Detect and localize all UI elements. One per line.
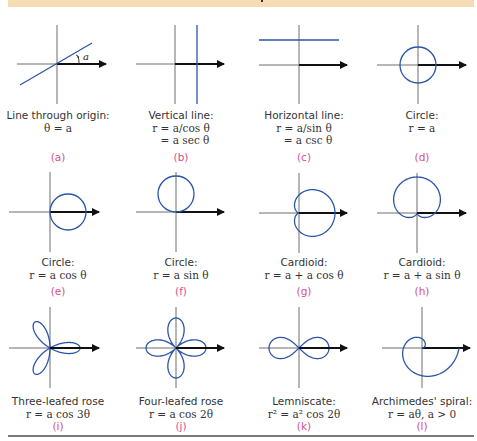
bottom-rule bbox=[8, 435, 474, 437]
panel-a-equation: θ = a bbox=[0, 122, 117, 135]
panel-l-title: Archimedes' spiral: bbox=[363, 395, 477, 408]
panel-b-title: Vertical line: bbox=[122, 109, 240, 122]
panel-i-label: (i) bbox=[0, 420, 117, 433]
panel-j-title: Four-leafed rose bbox=[122, 395, 240, 408]
panel-f-label: (f) bbox=[122, 285, 240, 298]
panel-e-equation: r = a cos θ bbox=[0, 269, 117, 282]
panel-j-caption: Four-leafed rose r = a cos 2θ (j) bbox=[122, 395, 240, 433]
panel-b-equation-2: = a sec θ bbox=[122, 134, 240, 147]
panel-h-caption: Cardioid: r = a + a sin θ (h) bbox=[363, 256, 477, 298]
panel-h-equation: r = a + a sin θ bbox=[363, 269, 477, 282]
panel-f-title: Circle: bbox=[122, 256, 240, 269]
angle-a-label: a bbox=[83, 51, 89, 62]
panel-k-title: Lemniscate: bbox=[245, 395, 363, 408]
panel-i-caption: Three-leafed rose r = a cos 3θ (i) bbox=[0, 395, 117, 433]
panel-l-label: (l) bbox=[363, 420, 477, 433]
panel-e-title: Circle: bbox=[0, 256, 117, 269]
panel-a-label: (a) bbox=[0, 151, 117, 164]
panel-e-graph bbox=[9, 172, 99, 252]
panel-l-equation: r = aθ, a > 0 bbox=[363, 408, 477, 421]
panel-i-graph bbox=[9, 307, 99, 388]
panel-k-label: (k) bbox=[245, 420, 363, 433]
panel-b-equation: r = a/cos θ bbox=[122, 122, 240, 135]
panel-c-graph bbox=[259, 25, 347, 104]
panel-e-label: (e) bbox=[0, 285, 117, 298]
panel-i-equation: r = a cos 3θ bbox=[0, 408, 117, 421]
panel-j-equation: r = a cos 2θ bbox=[122, 408, 240, 421]
panel-a-title: Line through origin: bbox=[0, 109, 117, 122]
panel-d-label: (d) bbox=[363, 151, 477, 164]
panel-d-title: Circle: bbox=[363, 109, 477, 122]
panel-k-caption: Lemniscate: r² = a² cos 2θ (k) bbox=[245, 395, 363, 433]
panel-g-caption: Cardioid: r = a + a cos θ (g) bbox=[245, 256, 363, 298]
panel-f-graph bbox=[136, 172, 224, 252]
panel-b-label: (b) bbox=[122, 151, 240, 164]
panel-d-caption: Circle: r = a (d) bbox=[363, 109, 477, 163]
panel-d-graph bbox=[377, 25, 466, 104]
panel-j-label: (j) bbox=[122, 420, 240, 433]
panel-g-label: (g) bbox=[245, 285, 363, 298]
panel-l-caption: Archimedes' spiral: r = aθ, a > 0 (l) bbox=[363, 395, 477, 433]
panel-k-equation: r² = a² cos 2θ bbox=[245, 408, 363, 421]
panel-f-caption: Circle: r = a sin θ (f) bbox=[122, 256, 240, 298]
panel-h-label: (h) bbox=[363, 285, 477, 298]
panel-c-title: Horizontal line: bbox=[245, 109, 363, 122]
panel-e-caption: Circle: r = a cos θ (e) bbox=[0, 256, 117, 298]
panel-b-graph bbox=[136, 25, 224, 104]
panel-b-caption: Vertical line: r = a/cos θ = a sec θ (b) bbox=[122, 109, 240, 163]
panel-a-graph: a bbox=[17, 25, 106, 104]
polar-graphs-figure: a bbox=[0, 0, 477, 441]
panel-f-equation: r = a sin θ bbox=[122, 269, 240, 282]
panel-g-equation: r = a + a cos θ bbox=[245, 269, 363, 282]
panel-g-graph bbox=[259, 173, 347, 253]
panel-h-graph bbox=[377, 173, 466, 253]
panel-i-title: Three-leafed rose bbox=[0, 395, 117, 408]
panel-c-equation-2: = a csc θ bbox=[245, 134, 363, 147]
panel-g-title: Cardioid: bbox=[245, 256, 363, 269]
panel-j-graph bbox=[136, 307, 224, 388]
panel-c-equation: r = a/sin θ bbox=[245, 122, 363, 135]
panel-a-caption: Line through origin: θ = a (a) bbox=[0, 109, 117, 163]
panel-l-graph bbox=[382, 307, 470, 388]
panel-h-title: Cardioid: bbox=[363, 256, 477, 269]
panel-c-label: (c) bbox=[245, 151, 363, 164]
panel-d-equation: r = a bbox=[363, 122, 477, 135]
panel-c-caption: Horizontal line: r = a/sin θ = a csc θ (… bbox=[245, 109, 363, 163]
panel-k-graph bbox=[259, 307, 347, 388]
